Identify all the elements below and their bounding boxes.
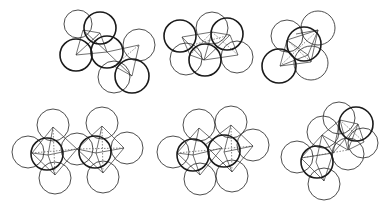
sphere-packing-diagram (0, 0, 392, 210)
